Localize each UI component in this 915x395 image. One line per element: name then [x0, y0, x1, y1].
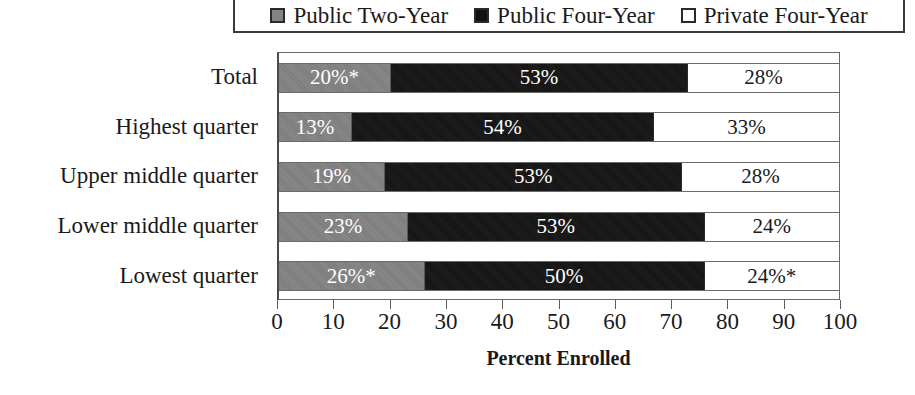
chart-legend: Public Two-Year Public Four-Year Private… — [233, 0, 905, 33]
bar-segment-public-two-year: 13% — [279, 113, 352, 141]
y-axis-label: Total — [211, 52, 258, 102]
y-axis-label: Upper middle quarter — [60, 151, 258, 201]
y-axis-label: Lowest quarter — [119, 250, 258, 300]
bar-segment-public-four-year: 50% — [425, 262, 705, 290]
x-axis-tick-label: 100 — [823, 310, 858, 333]
y-axis-label: Highest quarter — [116, 102, 258, 152]
bar-segment-private-four-year: 24%* — [705, 262, 839, 290]
x-axis-tick — [615, 300, 616, 309]
legend-item-private-four-year: Private Four-Year — [681, 4, 868, 27]
bar-segment-public-four-year: 54% — [352, 113, 654, 141]
legend-label: Private Four-Year — [704, 4, 868, 27]
bar-segment-public-four-year: 53% — [391, 64, 688, 92]
legend-label: Public Four-Year — [497, 4, 655, 27]
stacked-bar: 13% 54% 33% — [279, 112, 839, 142]
white-square-icon — [681, 8, 696, 23]
black-square-icon — [474, 8, 489, 23]
x-axis-tick-labels: 0 10 20 30 40 50 60 70 80 90 100 — [277, 310, 840, 340]
x-axis-tick-label: 30 — [434, 310, 457, 333]
x-axis-tick — [671, 300, 672, 309]
legend-item-public-four-year: Public Four-Year — [474, 4, 655, 27]
bar-segment-private-four-year: 28% — [688, 64, 839, 92]
x-axis-tick — [559, 300, 560, 309]
stacked-bar: 19% 53% 28% — [279, 162, 839, 192]
gray-square-icon — [270, 8, 285, 23]
bar-segment-public-two-year: 23% — [279, 213, 408, 241]
bar-row: 13% 54% 33% — [279, 103, 839, 153]
bar-row: 26%* 50% 24%* — [279, 251, 839, 301]
bar-segment-private-four-year: 28% — [682, 163, 839, 191]
bar-segment-public-four-year: 53% — [408, 213, 705, 241]
plot-area: 20%* 53% 28% 13% 54% 33% 19% 53% 28% 23%… — [277, 52, 840, 300]
x-axis-tick — [727, 300, 728, 309]
bar-segment-public-two-year: 20%* — [279, 64, 391, 92]
bar-row: 20%* 53% 28% — [279, 53, 839, 103]
y-axis-label: Lower middle quarter — [57, 201, 258, 251]
x-axis-tick-label: 20 — [378, 310, 401, 333]
x-axis-tick-label: 90 — [772, 310, 795, 333]
bar-row: 23% 53% 24% — [279, 202, 839, 252]
x-axis-tick — [784, 300, 785, 309]
bar-segment-public-two-year: 26%* — [279, 262, 425, 290]
x-axis-tick — [840, 300, 841, 309]
x-axis-tick — [277, 300, 278, 309]
x-axis-tick-label: 0 — [271, 310, 283, 333]
stacked-bar-chart: Public Two-Year Public Four-Year Private… — [0, 0, 915, 395]
y-axis-labels: Total Highest quarter Upper middle quart… — [0, 52, 268, 300]
x-axis-tick-label: 50 — [547, 310, 570, 333]
x-axis-tick-label: 70 — [660, 310, 683, 333]
x-axis-title: Percent Enrolled — [277, 348, 840, 368]
bar-segment-private-four-year: 33% — [654, 113, 839, 141]
bar-segment-public-two-year: 19% — [279, 163, 385, 191]
bar-segment-private-four-year: 24% — [705, 213, 839, 241]
legend-item-public-two-year: Public Two-Year — [270, 4, 448, 27]
x-axis-tick — [390, 300, 391, 309]
stacked-bar: 23% 53% 24% — [279, 212, 839, 242]
x-axis-tick — [502, 300, 503, 309]
x-axis-tick — [333, 300, 334, 309]
x-axis-tick-label: 60 — [603, 310, 626, 333]
x-axis-tick-label: 40 — [491, 310, 514, 333]
x-axis-tick-label: 10 — [322, 310, 345, 333]
x-axis-tick — [446, 300, 447, 309]
bar-segment-public-four-year: 53% — [385, 163, 682, 191]
stacked-bar: 20%* 53% 28% — [279, 63, 839, 93]
legend-label: Public Two-Year — [293, 4, 448, 27]
bar-row: 19% 53% 28% — [279, 152, 839, 202]
x-axis-tick-label: 80 — [716, 310, 739, 333]
stacked-bar: 26%* 50% 24%* — [279, 261, 839, 291]
